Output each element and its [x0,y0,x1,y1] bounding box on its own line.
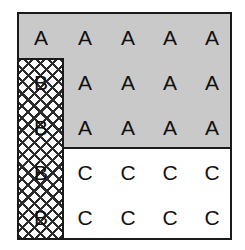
cell-r1-c1: A [24,21,58,55]
cell-label: B [24,156,58,190]
cell-label: A [153,21,187,55]
matrix-frame: AAAAABAAAABAAAABCCCCBCCCC [17,12,232,240]
cell-label: A [111,21,145,55]
cell-r4-c2: C [68,156,102,190]
cell-label: C [111,156,145,190]
cell-r5-c3: C [111,201,145,235]
cell-label: C [195,201,229,235]
cell-r2-c3: A [111,66,145,100]
cell-r4-c3: C [111,156,145,190]
cell-r3-c3: A [111,111,145,145]
cell-label: A [153,66,187,100]
cell-label: A [195,111,229,145]
cell-label: A [195,21,229,55]
cell-label: C [68,201,102,235]
cell-label: B [24,111,58,145]
cell-r3-c2: A [68,111,102,145]
cell-r2-c1: B [24,66,58,100]
cell-r4-c1: B [24,156,58,190]
cell-label: A [111,111,145,145]
cell-r2-c2: A [68,66,102,100]
cell-label: C [68,156,102,190]
cell-r1-c4: A [153,21,187,55]
cell-label: A [24,21,58,55]
cell-label: A [153,111,187,145]
cell-label: A [111,66,145,100]
cell-layer: AAAAABAAAABAAAABCCCCBCCCC [19,14,230,238]
cell-r4-c5: C [195,156,229,190]
cell-r1-c3: A [111,21,145,55]
cell-label: B [24,66,58,100]
cell-r1-c5: A [195,21,229,55]
cell-label: C [111,201,145,235]
cell-label: C [153,156,187,190]
cell-label: B [24,201,58,235]
cell-label: A [68,111,102,145]
cell-r1-c2: A [68,21,102,55]
cell-r3-c5: A [195,111,229,145]
cell-r2-c4: A [153,66,187,100]
cell-r5-c2: C [68,201,102,235]
cell-label: C [195,156,229,190]
cell-r3-c1: B [24,111,58,145]
cell-label: A [195,66,229,100]
cell-r3-c4: A [153,111,187,145]
cell-r5-c5: C [195,201,229,235]
cell-r2-c5: A [195,66,229,100]
cell-r5-c4: C [153,201,187,235]
cell-r4-c4: C [153,156,187,190]
cell-label: A [68,66,102,100]
diagram-canvas: AAAAABAAAABAAAABCCCCBCCCC [0,0,245,250]
cell-label: A [68,21,102,55]
cell-r5-c1: B [24,201,58,235]
cell-label: C [153,201,187,235]
